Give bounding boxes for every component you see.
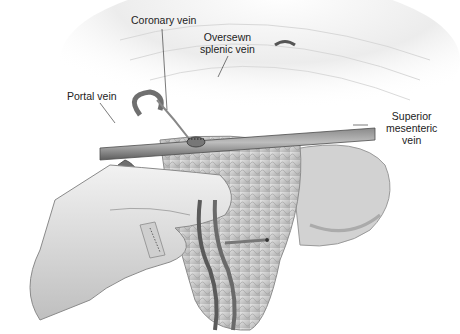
label-oversewn-line2: splenic vein xyxy=(200,43,255,55)
label-smv-line2: mesenteric xyxy=(386,122,437,134)
illustration-canvas: Coronary vein Oversewn splenic vein Port… xyxy=(0,0,460,334)
label-oversewn-line1: Oversewn xyxy=(200,31,255,43)
label-portal-vein: Portal vein xyxy=(67,90,117,102)
label-oversewn-splenic-vein: Oversewn splenic vein xyxy=(200,31,255,55)
label-superior-mesenteric-vein: Superior mesenteric vein xyxy=(386,110,437,146)
label-coronary-vein: Coronary vein xyxy=(131,14,196,26)
label-smv-line3: vein xyxy=(386,134,437,146)
label-smv-line1: Superior xyxy=(386,110,437,122)
oversewn-splenic-vein-stump xyxy=(187,137,205,147)
pancreas xyxy=(160,136,301,330)
